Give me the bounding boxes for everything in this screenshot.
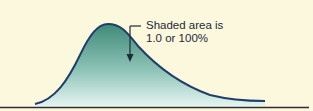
density-curve-graphic <box>0 0 313 111</box>
density-curve-diagram: Shaded area is 1.0 or 100% <box>0 0 313 111</box>
shaded-area-annotation: Shaded area is 1.0 or 100% <box>146 19 223 45</box>
annotation-line-1: Shaded area is <box>146 19 223 32</box>
annotation-line-2: 1.0 or 100% <box>146 32 223 45</box>
